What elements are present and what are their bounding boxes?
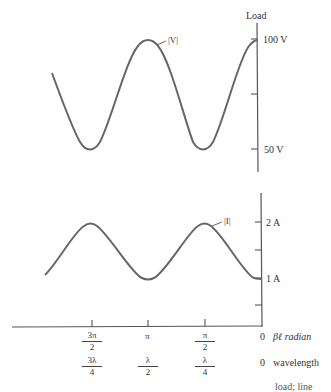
voltage-max-label: 100 V bbox=[263, 35, 288, 45]
current-curve bbox=[45, 224, 262, 280]
wavelength-zero: 0 bbox=[260, 358, 265, 368]
tick-pi: π bbox=[145, 332, 150, 341]
tick-lambda-over-2: λ2 bbox=[138, 356, 158, 377]
cutoff-caption-text: load; line bbox=[275, 381, 313, 392]
voltage-curve bbox=[52, 40, 258, 150]
x-axis bbox=[12, 326, 262, 327]
radian-axis-label: βℓ radian bbox=[273, 332, 311, 342]
voltage-curve-label: |V| bbox=[168, 36, 178, 45]
voltage-min-label: 50 V bbox=[264, 145, 284, 155]
current-curve-label: |I| bbox=[224, 217, 231, 226]
load-label: Load bbox=[246, 11, 267, 21]
tick-3lambda-over-4: 3λ4 bbox=[82, 356, 102, 377]
current-min-label: 1 A bbox=[266, 274, 280, 284]
current-max-label: 2 A bbox=[266, 218, 280, 228]
radian-zero: 0 bbox=[260, 332, 265, 342]
voltage-axis bbox=[257, 23, 258, 172]
tick-pi-over-2: π2 bbox=[195, 331, 215, 352]
wavelength-axis-label: wavelength bbox=[273, 358, 319, 368]
tick-3pi-over-2: 3π2 bbox=[82, 331, 102, 352]
tick-lambda-over-4: λ4 bbox=[195, 356, 215, 377]
current-axis bbox=[261, 193, 262, 327]
